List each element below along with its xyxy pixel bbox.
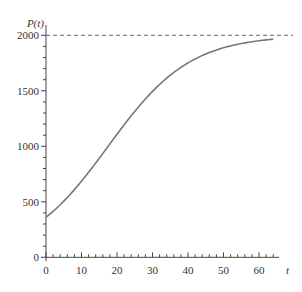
y-tick-label: 1000	[17, 140, 40, 152]
x-tick-label: 50	[218, 264, 230, 276]
series-line	[46, 39, 273, 217]
logistic-chart: 01020304050600500100015002000 P(t) t	[0, 0, 302, 292]
x-tick-label: 0	[43, 264, 49, 276]
x-tick-label: 40	[183, 264, 195, 276]
y-tick-label: 0	[34, 251, 40, 263]
ticks	[41, 35, 273, 257]
y-tick-label: 1500	[17, 85, 40, 97]
tick-labels: 01020304050600500100015002000	[17, 29, 265, 276]
y-axis-title: P(t)	[26, 17, 44, 30]
axes	[46, 25, 279, 261]
x-tick-label: 10	[76, 264, 88, 276]
x-axis-title: t	[286, 264, 290, 276]
y-tick-label: 500	[23, 196, 40, 208]
x-tick-label: 30	[147, 264, 159, 276]
x-tick-label: 20	[112, 264, 124, 276]
x-tick-label: 60	[254, 264, 266, 276]
y-tick-label: 2000	[17, 29, 40, 41]
